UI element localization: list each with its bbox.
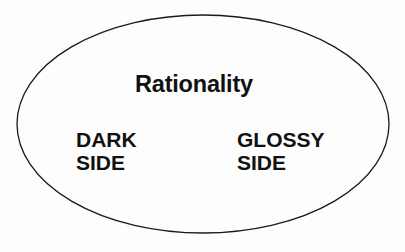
diagram-canvas: Rationality DARK SIDE GLOSSY SIDE (0, 0, 405, 252)
glossy-side-line2: SIDE (237, 151, 325, 174)
dark-side-line1: DARK (76, 128, 137, 151)
dark-side-label: DARK SIDE (76, 128, 137, 174)
dark-side-line2: SIDE (76, 151, 137, 174)
glossy-side-line1: GLOSSY (237, 128, 325, 151)
glossy-side-label: GLOSSY SIDE (237, 128, 325, 174)
rationality-ellipse (0, 0, 405, 252)
rationality-title: Rationality (135, 73, 253, 97)
